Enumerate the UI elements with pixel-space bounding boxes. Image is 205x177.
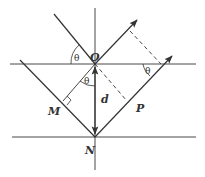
label-P: P — [135, 102, 145, 115]
label-M: M — [47, 105, 61, 118]
theta-refracted-label: θ — [84, 76, 89, 86]
perpendicular-O-M — [63, 64, 95, 101]
dashed-wavefront — [130, 31, 161, 64]
label-O: O — [90, 51, 100, 64]
thin-film-diagram: θ θ θ O N M P d — [0, 0, 205, 177]
theta-exit-label: θ — [145, 66, 150, 76]
dashed-O-P — [95, 64, 127, 101]
right-angle-mark — [67, 96, 71, 105]
theta-incident-label: θ — [74, 53, 79, 63]
label-N: N — [84, 144, 96, 157]
reflected-ray-top — [95, 20, 137, 64]
left-ray-to-N — [20, 60, 95, 137]
label-d: d — [101, 93, 109, 106]
